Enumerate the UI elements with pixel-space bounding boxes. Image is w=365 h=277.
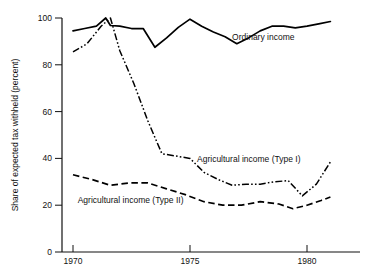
x-tick-label-1975: 1975 (181, 256, 200, 266)
x-tick-label-1970: 1970 (64, 256, 83, 266)
y-tick-label-100: 100 (38, 13, 52, 23)
series-line-agricultural-income-type-i (73, 18, 330, 196)
y-axis-title: Share of expected tax withheld (percent) (10, 59, 20, 212)
annotation-agricultural-income-type-i: Agricultural income (Type I) (197, 154, 301, 164)
line-chart-svg: 100 80 60 40 20 0 1970 1975 1980 Share o… (0, 0, 365, 277)
y-axis-tick-labels: 100 80 60 40 20 0 (38, 13, 52, 257)
y-tick-label-0: 0 (47, 247, 52, 257)
x-axis-tick-labels: 1970 1975 1980 (64, 256, 317, 266)
x-tick-label-1980: 1980 (298, 256, 317, 266)
x-axis-ticks (73, 245, 307, 252)
y-tick-label-20: 20 (43, 200, 53, 210)
series-group (73, 18, 330, 209)
y-tick-label-40: 40 (43, 153, 53, 163)
series-annotations: Ordinary income Agricultural income (Typ… (78, 32, 301, 205)
y-axis-ticks (55, 18, 62, 252)
annotation-ordinary-income: Ordinary income (232, 32, 295, 42)
annotation-agricultural-income-type-ii: Agricultural income (Type II) (78, 195, 184, 205)
chart-container: 100 80 60 40 20 0 1970 1975 1980 Share o… (0, 0, 365, 277)
y-tick-label-60: 60 (43, 107, 53, 117)
y-tick-label-80: 80 (43, 60, 53, 70)
